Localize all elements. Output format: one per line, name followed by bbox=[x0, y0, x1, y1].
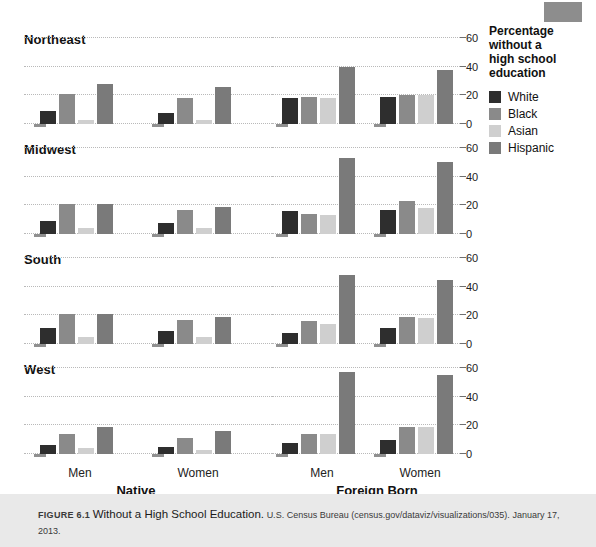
legend-label: Hispanic bbox=[508, 142, 554, 154]
bar-white[interactable] bbox=[380, 328, 396, 344]
bar-asian[interactable] bbox=[320, 324, 336, 344]
bar-white[interactable] bbox=[40, 445, 56, 454]
y-tick-label: 40 bbox=[466, 391, 478, 403]
bar-black[interactable] bbox=[399, 427, 415, 454]
bar-hispanic[interactable] bbox=[437, 280, 453, 345]
bar-asian[interactable] bbox=[78, 228, 94, 234]
bar-hispanic[interactable] bbox=[215, 207, 231, 234]
panel-west-foreign-born bbox=[272, 358, 466, 468]
y-tick-label: 40 bbox=[466, 281, 478, 293]
plot-area bbox=[24, 28, 274, 138]
bar-black[interactable] bbox=[59, 314, 75, 344]
bar-white[interactable] bbox=[158, 223, 174, 234]
bar-white[interactable] bbox=[380, 440, 396, 454]
bar-black[interactable] bbox=[301, 97, 317, 124]
bar-asian[interactable] bbox=[320, 434, 336, 454]
plot-area bbox=[24, 138, 274, 248]
bar-hispanic[interactable] bbox=[339, 372, 355, 454]
region-row-south: South0204060 bbox=[0, 248, 596, 358]
group-baseline bbox=[374, 454, 386, 457]
bar-hispanic[interactable] bbox=[437, 70, 453, 124]
bars bbox=[380, 148, 453, 234]
bar-white[interactable] bbox=[282, 211, 298, 234]
legend-item-white[interactable]: White bbox=[489, 89, 593, 104]
bars bbox=[158, 148, 231, 234]
bar-black[interactable] bbox=[399, 317, 415, 344]
group-baseline bbox=[276, 234, 288, 237]
bar-asian[interactable] bbox=[78, 337, 94, 344]
bar-hispanic[interactable] bbox=[97, 204, 113, 234]
bar-asian[interactable] bbox=[320, 98, 336, 124]
bar-white[interactable] bbox=[40, 328, 56, 344]
bar-black[interactable] bbox=[177, 98, 193, 124]
bar-hispanic[interactable] bbox=[97, 84, 113, 124]
panel-south-native bbox=[24, 248, 274, 358]
bar-hispanic[interactable] bbox=[97, 427, 113, 454]
bar-black[interactable] bbox=[59, 434, 75, 454]
legend-item-hispanic[interactable]: Hispanic bbox=[489, 140, 593, 155]
legend-label: Black bbox=[508, 108, 537, 120]
caption-title: Without a High School Education. bbox=[93, 508, 264, 520]
bar-black[interactable] bbox=[301, 321, 317, 344]
bar-white[interactable] bbox=[40, 221, 56, 234]
bar-hispanic[interactable] bbox=[437, 375, 453, 454]
bar-hispanic[interactable] bbox=[215, 317, 231, 344]
legend-swatch-asian-icon bbox=[489, 125, 501, 137]
bar-white[interactable] bbox=[158, 331, 174, 344]
figure-caption: FIGURE 6.1 Without a High School Educati… bbox=[38, 507, 576, 539]
panel-northeast-foreign-born bbox=[272, 28, 466, 138]
bar-asian[interactable] bbox=[78, 448, 94, 454]
bar-black[interactable] bbox=[301, 214, 317, 234]
legend-swatch-white-icon bbox=[489, 91, 501, 103]
bar-hispanic[interactable] bbox=[437, 162, 453, 234]
bar-black[interactable] bbox=[59, 204, 75, 234]
category-label-foreign-men: Men bbox=[282, 466, 362, 480]
bars bbox=[40, 38, 113, 124]
legend-title: Percentage without a high school educati… bbox=[489, 24, 593, 80]
bar-asian[interactable] bbox=[418, 95, 434, 124]
bar-white[interactable] bbox=[282, 443, 298, 454]
bar-hispanic[interactable] bbox=[97, 314, 113, 344]
bar-hispanic[interactable] bbox=[215, 87, 231, 124]
bar-black[interactable] bbox=[177, 210, 193, 234]
bar-black[interactable] bbox=[177, 320, 193, 344]
bar-white[interactable] bbox=[282, 98, 298, 124]
bar-asian[interactable] bbox=[196, 120, 212, 124]
legend-swatch-hispanic-icon bbox=[489, 142, 501, 154]
bar-black[interactable] bbox=[399, 201, 415, 234]
bar-hispanic[interactable] bbox=[339, 67, 355, 124]
bar-white[interactable] bbox=[282, 333, 298, 344]
bars bbox=[158, 258, 231, 344]
group-baseline bbox=[34, 234, 46, 237]
bar-asian[interactable] bbox=[78, 120, 94, 124]
bar-asian[interactable] bbox=[320, 215, 336, 234]
bar-asian[interactable] bbox=[418, 208, 434, 234]
bar-asian[interactable] bbox=[196, 228, 212, 234]
bar-white[interactable] bbox=[40, 111, 56, 124]
bar-hispanic[interactable] bbox=[339, 158, 355, 234]
bar-black[interactable] bbox=[301, 434, 317, 454]
bar-white[interactable] bbox=[380, 97, 396, 124]
panel-midwest-foreign-born bbox=[272, 138, 466, 248]
bar-black[interactable] bbox=[399, 95, 415, 124]
bar-white[interactable] bbox=[380, 210, 396, 234]
legend-item-asian[interactable]: Asian bbox=[489, 123, 593, 138]
bar-black[interactable] bbox=[59, 94, 75, 124]
bar-hispanic[interactable] bbox=[215, 431, 231, 454]
plot-area bbox=[272, 28, 466, 138]
bar-white[interactable] bbox=[158, 447, 174, 454]
y-tick-label: 20 bbox=[466, 199, 478, 211]
y-axis-south: 0204060 bbox=[466, 248, 506, 358]
bar-hispanic[interactable] bbox=[339, 275, 355, 344]
y-tick-label: 0 bbox=[466, 228, 472, 240]
bar-black[interactable] bbox=[177, 438, 193, 454]
bars bbox=[40, 368, 113, 454]
bar-asian[interactable] bbox=[196, 450, 212, 454]
legend-item-black[interactable]: Black bbox=[489, 106, 593, 121]
bar-white[interactable] bbox=[158, 113, 174, 124]
bar-asian[interactable] bbox=[418, 318, 434, 344]
bar-asian[interactable] bbox=[196, 337, 212, 344]
bars bbox=[282, 38, 355, 124]
bar-asian[interactable] bbox=[418, 427, 434, 454]
bars bbox=[380, 38, 453, 124]
